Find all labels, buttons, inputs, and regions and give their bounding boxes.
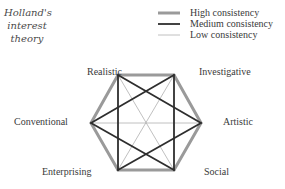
node-label-enterprising: Enterprising [42, 166, 91, 178]
hexagon-diagram [0, 0, 285, 189]
node-label-investigative: Investigative [199, 66, 251, 78]
node-label-realistic: Realistic [87, 66, 122, 78]
node-label-conventional: Conventional [14, 116, 68, 128]
node-label-social: Social [204, 166, 229, 178]
low-consistency-edges [91, 75, 201, 170]
node-label-artistic: Artistic [223, 116, 253, 128]
